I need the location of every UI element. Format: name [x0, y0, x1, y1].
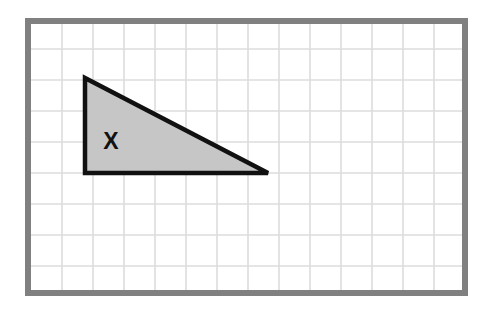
triangle-label-x: X [103, 128, 119, 154]
figure-canvas: X [0, 0, 494, 318]
geometry-figure: X [0, 0, 494, 318]
